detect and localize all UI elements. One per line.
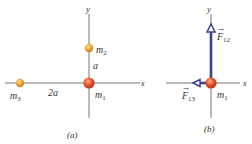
mass-m1 [83,77,94,88]
y-axis-label: y [206,4,211,14]
f12-vector-arrow-icon: → [218,26,224,34]
f13-vector-arrow-icon: → [183,85,189,93]
mass-m3 [16,79,24,87]
distance-2a-label: 2a [48,87,58,98]
x-axis-label-a: x [140,79,145,88]
caption-a: (a) [67,130,78,140]
figure: y m2 a m3 2a m1 (a) x x y F12 → F13 → m1… [0,0,252,144]
x-axis-label: x [242,79,247,88]
force-f12-arrowhead-icon [207,24,215,32]
m2-label: m2 [96,44,107,57]
y-axis-label: y [85,4,90,14]
force-f13-arrowhead-icon [193,80,200,87]
m3-label: m3 [10,90,21,103]
panel-b: x y F12 → F13 → m1 (b) [166,4,247,134]
mass-m2 [85,44,93,52]
m1-label: m1 [95,89,106,102]
m1-label: m1 [217,89,228,102]
caption-b: (b) [204,124,215,134]
panel-a: y m2 a m3 2a m1 (a) [5,4,126,140]
mass-m1 [205,77,216,88]
distance-a-label: a [93,60,98,71]
